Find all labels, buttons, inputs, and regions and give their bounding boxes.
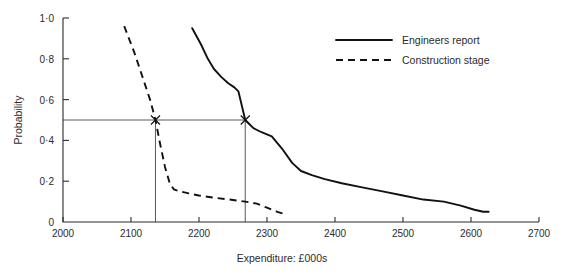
legend: Engineers report Construction stage — [336, 34, 490, 66]
y-tick-marks — [63, 18, 69, 181]
y-axis-title: Probability — [12, 95, 24, 145]
reference-lines — [63, 120, 245, 222]
y-tick-label: 0·8 — [40, 54, 55, 65]
y-tick-label: 0·2 — [40, 176, 55, 187]
probability-expenditure-chart: 20002100220023002400250026002700 00·20·4… — [0, 0, 564, 274]
x-tick-label: 2200 — [188, 228, 211, 239]
x-tick-label: 2600 — [460, 228, 483, 239]
x-tick-marks — [63, 217, 539, 222]
x-tick-label: 2500 — [392, 228, 415, 239]
x-tick-label: 2700 — [528, 228, 551, 239]
x-tick-label: 2400 — [324, 228, 347, 239]
x-tick-label: 2000 — [52, 228, 75, 239]
legend-label-construction-stage: Construction stage — [402, 54, 490, 66]
y-tick-label: 0·4 — [40, 135, 55, 146]
x-axis-title: Expenditure: £000s — [237, 252, 327, 264]
y-tick-label: 1·0 — [40, 13, 55, 24]
x-tick-label: 2300 — [256, 228, 279, 239]
y-tick-labels: 00·20·40·60·81·0 — [40, 13, 55, 228]
y-tick-label: 0·6 — [40, 95, 55, 106]
chart-canvas: 20002100220023002400250026002700 00·20·4… — [0, 0, 564, 274]
x-tick-labels: 20002100220023002400250026002700 — [52, 228, 551, 239]
legend-label-engineers-report: Engineers report — [402, 34, 480, 46]
y-tick-label: 0 — [48, 217, 54, 228]
x-tick-label: 2100 — [120, 228, 143, 239]
